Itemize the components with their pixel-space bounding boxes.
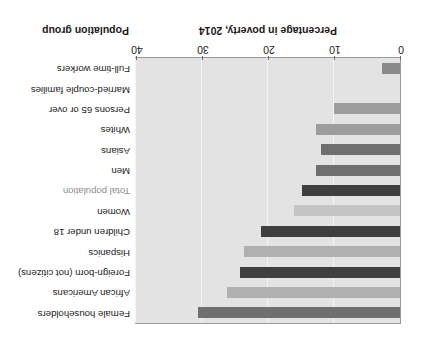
gridline	[135, 58, 136, 323]
y-axis-title: Population group	[42, 25, 129, 37]
bar	[240, 267, 400, 278]
category-label: Men	[111, 166, 130, 177]
bar	[382, 63, 400, 74]
x-tick-mark	[202, 56, 203, 60]
x-axis-title: Percentage in poverty, 2014	[135, 25, 401, 37]
category-label: Foreign-born (not citizens)	[18, 268, 130, 279]
x-tick-label: 10	[329, 44, 341, 56]
category-label: Female householders	[38, 308, 130, 319]
plot-area	[135, 57, 401, 324]
x-tick-mark	[334, 56, 335, 60]
bar	[321, 144, 400, 155]
bar	[334, 103, 400, 114]
bar	[294, 205, 400, 216]
category-label: Hispanics	[88, 247, 130, 258]
gridline	[267, 58, 268, 323]
x-tick-label: 0	[398, 44, 404, 56]
bar	[316, 165, 400, 176]
category-label: Married-couple families	[31, 84, 130, 95]
bar	[244, 246, 400, 257]
x-tick-mark	[136, 56, 137, 60]
x-tick-label: 20	[263, 44, 275, 56]
category-label: Children under 18	[54, 227, 130, 238]
category-label: Persons 65 or over	[49, 104, 130, 115]
bar	[198, 307, 400, 318]
bar	[261, 226, 400, 237]
bar	[227, 287, 400, 298]
category-label: Asians	[101, 145, 130, 156]
category-label: Total population	[63, 186, 130, 197]
category-label: Women	[97, 206, 130, 217]
category-label: Full-time workers	[57, 64, 130, 75]
bar	[316, 124, 400, 135]
gridline	[201, 58, 202, 323]
category-label: African Americans	[53, 288, 130, 299]
x-tick-mark	[268, 56, 269, 60]
x-tick-label: 30	[197, 44, 209, 56]
x-tick-label: 40	[131, 44, 143, 56]
x-tick-mark	[400, 56, 401, 60]
bar	[302, 185, 400, 196]
poverty-bar-chart: 010203040 Percentage in poverty, 2014 Po…	[0, 0, 421, 345]
x-axis: 010203040	[135, 40, 401, 56]
category-label: Whites	[101, 125, 130, 136]
